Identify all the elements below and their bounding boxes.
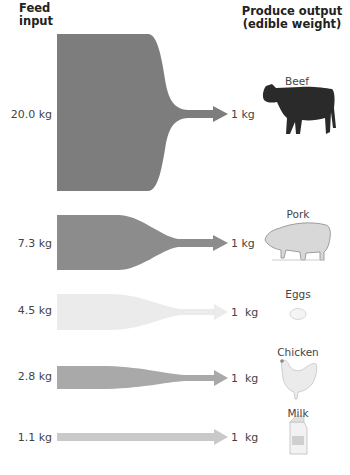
eggs-input-label: 4.5 kg xyxy=(0,304,52,317)
chicken-input-label: 2.8 kg xyxy=(0,370,52,383)
cow-icon xyxy=(263,84,336,134)
milk-carton-icon xyxy=(290,416,307,454)
pork-output-label: 1 kg xyxy=(231,237,255,250)
milk-flow xyxy=(57,429,228,445)
chicken-flow xyxy=(57,366,228,389)
pork-flow xyxy=(57,215,228,270)
pig-icon xyxy=(265,223,330,260)
pork-label: Pork xyxy=(258,208,338,220)
chicken-output-label: 1 kg xyxy=(231,372,258,385)
chicken-label: Chicken xyxy=(258,346,338,358)
egg-icon xyxy=(290,309,306,320)
milk-output-label: 1 kg xyxy=(231,431,258,444)
flow-diagram xyxy=(0,0,350,475)
eggs-flow xyxy=(57,294,228,330)
milk-label: Milk xyxy=(258,407,338,419)
beef-flow xyxy=(57,34,228,191)
beef-input-label: 20.0 kg xyxy=(0,108,52,121)
beef-label: Beef xyxy=(257,75,337,87)
pork-input-label: 7.3 kg xyxy=(0,237,52,250)
eggs-output-label: 1 kg xyxy=(231,306,258,319)
chicken-icon xyxy=(280,359,317,399)
beef-output-label: 1 kg xyxy=(231,108,255,121)
milk-input-label: 1.1 kg xyxy=(0,431,52,444)
eggs-label: Eggs xyxy=(258,288,338,300)
